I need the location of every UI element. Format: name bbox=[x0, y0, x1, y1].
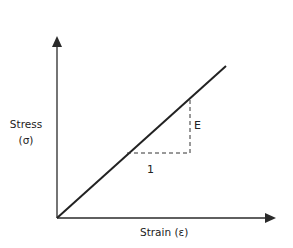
y-axis-symbol: (σ) bbox=[4, 135, 48, 146]
elastic-line bbox=[57, 66, 226, 218]
run-label: 1 bbox=[147, 164, 154, 175]
y-axis-label-text: Stress bbox=[4, 119, 48, 130]
y-axis-arrow-icon bbox=[52, 36, 62, 47]
x-axis-arrow-icon bbox=[265, 213, 276, 223]
y-axis bbox=[52, 36, 62, 218]
x-axis bbox=[57, 213, 276, 223]
y-axis-label: Stress (σ) bbox=[4, 119, 48, 145]
rise-label: E bbox=[194, 120, 201, 131]
x-axis-label: Strain (ε) bbox=[140, 227, 188, 238]
